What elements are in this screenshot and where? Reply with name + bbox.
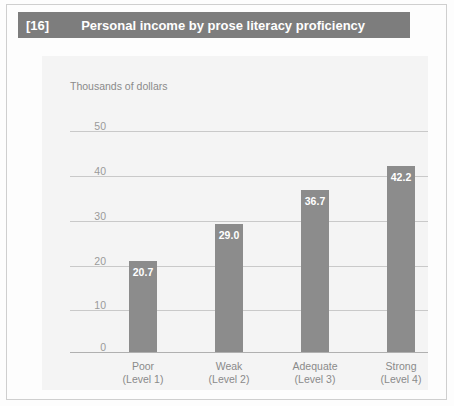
bar-value-poor: 20.7 bbox=[126, 266, 160, 278]
category-label-poor: Poor (Level 1) bbox=[97, 360, 189, 386]
figure-root: [16] Personal income by prose literacy p… bbox=[0, 0, 454, 406]
gridline-10 bbox=[70, 310, 428, 311]
category-label-adequate-line2: (Level 3) bbox=[269, 373, 361, 386]
category-label-weak-line1: Weak bbox=[216, 360, 243, 372]
bar-value-weak: 29.0 bbox=[212, 229, 246, 241]
category-label-strong-line2: (Level 4) bbox=[355, 373, 447, 386]
bar-strong[interactable] bbox=[387, 166, 415, 352]
gridline-50 bbox=[70, 131, 428, 132]
figure-number: [16] bbox=[18, 18, 49, 33]
gridline-0 bbox=[70, 352, 428, 353]
figure-header: [16] Personal income by prose literacy p… bbox=[18, 12, 410, 38]
figure-title: Personal income by prose literacy profic… bbox=[49, 18, 365, 33]
y-tick-label-0: 0 bbox=[66, 341, 106, 353]
gridline-30 bbox=[70, 221, 428, 222]
category-label-strong-line1: Strong bbox=[386, 360, 417, 372]
y-tick-label-10: 10 bbox=[66, 299, 106, 311]
y-tick-label-20: 20 bbox=[66, 255, 106, 267]
category-label-strong: Strong (Level 4) bbox=[355, 360, 447, 386]
category-label-adequate-line1: Adequate bbox=[293, 360, 338, 372]
category-label-poor-line2: (Level 1) bbox=[97, 373, 189, 386]
y-tick-label-50: 50 bbox=[66, 120, 106, 132]
category-label-adequate: Adequate (Level 3) bbox=[269, 360, 361, 386]
bar-value-adequate: 36.7 bbox=[298, 195, 332, 207]
bar-adequate[interactable] bbox=[301, 190, 329, 352]
bar-value-strong: 42.2 bbox=[384, 171, 418, 183]
chart-panel: Thousands of dollars 50 40 30 20 10 0 20… bbox=[42, 56, 428, 390]
category-label-weak: Weak (Level 2) bbox=[183, 360, 275, 386]
gridline-20 bbox=[70, 266, 428, 267]
y-tick-label-40: 40 bbox=[66, 165, 106, 177]
y-tick-label-30: 30 bbox=[66, 210, 106, 222]
category-label-poor-line1: Poor bbox=[132, 360, 154, 372]
gridline-40 bbox=[70, 176, 428, 177]
category-label-weak-line2: (Level 2) bbox=[183, 373, 275, 386]
bar-weak[interactable] bbox=[215, 224, 243, 352]
plot-area: 50 40 30 20 10 0 20.7 29.0 36.7 42.2 Poo… bbox=[42, 56, 428, 390]
